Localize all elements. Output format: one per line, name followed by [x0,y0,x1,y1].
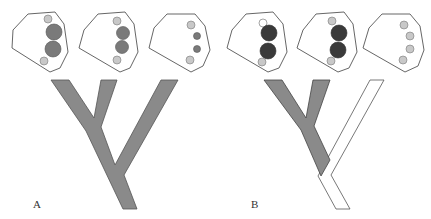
panel-a [12,12,210,209]
large-circle-icon [117,27,130,40]
small-circle-icon [406,45,414,53]
panel-b-blob-1 [227,12,287,72]
small-circle-icon [258,58,266,66]
small-circle-icon [186,56,194,64]
panel-b-tree-white [318,80,384,209]
phylogeny-figure [0,0,431,219]
panel-a-tree [51,80,178,209]
large-circle-icon [260,43,276,59]
panel-a-blob-2 [79,12,138,72]
large-circle-icon [116,41,129,54]
small-circle-icon [113,17,121,25]
large-circle-icon [45,41,61,57]
small-circle-icon [187,21,195,29]
small-circle-icon [406,32,414,40]
small-circle-icon [194,46,201,53]
panel-b-tree-gray [264,80,330,176]
panel-b-blob-3 [363,14,424,72]
small-circle-icon [327,57,335,65]
small-circle-icon [400,21,408,29]
small-circle-icon [399,56,407,64]
large-circle-icon [330,42,346,58]
small-circle-icon [194,33,201,40]
small-circle-icon [328,17,336,25]
panel-a-blob-3 [149,14,210,72]
panel-a-label: A [33,198,41,210]
panel-a-blob-1 [12,12,68,72]
panel-b-label: B [251,198,258,210]
panel-b [227,12,424,209]
large-circle-icon [261,25,277,41]
small-circle-icon [44,15,52,23]
small-circle-icon [113,56,121,64]
small-circle-icon [40,57,48,65]
panel-b-blob-2 [297,12,357,72]
large-circle-icon [46,24,62,40]
large-circle-icon [331,25,347,41]
